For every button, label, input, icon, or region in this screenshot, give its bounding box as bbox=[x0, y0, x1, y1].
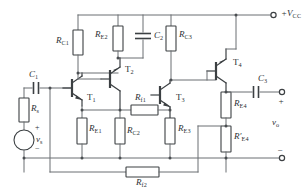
source-plus-sign: + bbox=[35, 124, 40, 132]
source-minus-sign: − bbox=[35, 145, 40, 153]
label-rc2: RC2 bbox=[127, 126, 140, 135]
transistor-t4 bbox=[207, 49, 236, 92]
output-plus-sign: + bbox=[278, 97, 284, 106]
label-vcc: +VCC bbox=[281, 9, 301, 18]
resistor-re2 bbox=[113, 15, 123, 58]
label-rf1: Rf1 bbox=[135, 93, 146, 102]
capacitor-c3 bbox=[226, 86, 285, 98]
resistor-rc1 bbox=[73, 15, 83, 73]
resistor-rc3 bbox=[166, 15, 176, 80]
transistor-t2 bbox=[78, 58, 120, 110]
label-re1: RE1 bbox=[89, 124, 102, 133]
label-t3: T3 bbox=[176, 93, 185, 102]
label-vo: vo bbox=[272, 118, 279, 127]
resistor-re4 bbox=[221, 92, 231, 126]
label-t4: T4 bbox=[233, 58, 242, 67]
label-t2: T2 bbox=[125, 65, 134, 74]
output-minus-sign: − bbox=[277, 146, 283, 155]
resistor-re4-prime bbox=[221, 126, 231, 172]
label-c2: C2 bbox=[154, 31, 163, 40]
vcc-terminal bbox=[271, 12, 276, 17]
label-re4-prime: R′E4 bbox=[234, 132, 249, 141]
resistor-re3 bbox=[165, 118, 175, 158]
label-re3: RE3 bbox=[178, 124, 191, 133]
label-rc3: RC3 bbox=[179, 30, 192, 39]
resistor-rc2 bbox=[115, 110, 125, 158]
schematic-svg bbox=[0, 0, 304, 195]
ground-rail-wire bbox=[24, 155, 285, 160]
label-re2: RE2 bbox=[95, 30, 108, 39]
junction-dots bbox=[23, 14, 238, 160]
resistor-rf1 bbox=[82, 105, 170, 115]
label-c3: C3 bbox=[258, 74, 267, 83]
label-c1: C1 bbox=[29, 70, 38, 79]
label-rf2: Rf2 bbox=[136, 178, 147, 187]
resistor-re1 bbox=[77, 106, 87, 158]
label-rs: Rs bbox=[31, 104, 39, 113]
circuit-diagram-canvas: +VCC RC1 RE2 C2 RC3 T1 T2 T3 T4 C1 C3 Rs… bbox=[0, 0, 304, 195]
label-re4: RE4 bbox=[234, 99, 247, 108]
label-vs: vs bbox=[36, 135, 43, 144]
label-t1: T1 bbox=[87, 93, 96, 102]
label-rc1: RC1 bbox=[56, 36, 69, 45]
